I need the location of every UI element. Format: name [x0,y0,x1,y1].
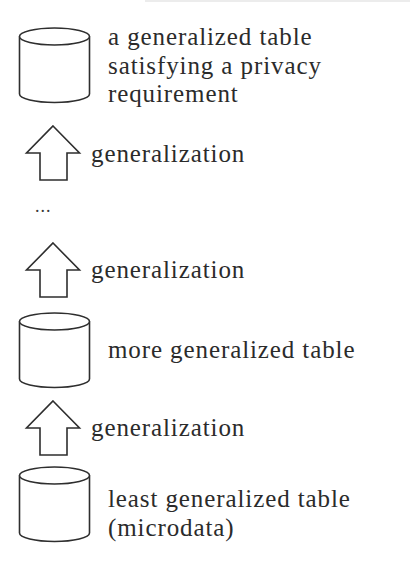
up-arrow-icon [24,399,82,458]
edge-label-generalization: generalization [91,140,245,169]
node-label-middle: more generalized table [108,336,355,365]
node-label-line: requirement [108,80,322,109]
node-label-line: satisfying a privacy [108,52,322,81]
edge-label-generalization: generalization [91,414,245,443]
up-arrow-icon [24,124,82,183]
database-cylinder-icon [17,464,93,546]
database-cylinder-icon [17,310,93,392]
up-arrow-icon [24,241,82,300]
node-label-top: a generalized table satisfying a privacy… [108,23,322,109]
node-label-line: least generalized table [108,485,351,514]
node-label-line: (microdata) [108,514,351,543]
ellipsis-continuation: ... [35,196,52,217]
node-label-bottom: least generalized table (microdata) [108,485,351,542]
edge-label-generalization: generalization [91,256,245,285]
database-cylinder-icon [17,25,93,107]
generalization-diagram: a generalized table satisfying a privacy… [0,0,410,563]
node-label-line: more generalized table [108,336,355,365]
node-label-line: a generalized table [108,23,322,52]
